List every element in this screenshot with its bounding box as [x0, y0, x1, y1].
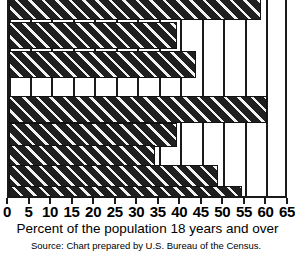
- plot-area: [7, 0, 287, 198]
- tick-label-20: 20: [85, 203, 101, 221]
- bar-3: [9, 51, 196, 78]
- tick-label-5: 5: [25, 203, 33, 221]
- tick-label-10: 10: [42, 203, 58, 221]
- tick-label-65: 65: [279, 203, 295, 221]
- tick-label-25: 25: [107, 203, 123, 221]
- bar-row: [9, 22, 285, 49]
- tick-label-35: 35: [150, 203, 166, 221]
- bar-row: [9, 0, 285, 20]
- tick-label-0: 0: [3, 203, 11, 221]
- tick-label-30: 30: [128, 203, 144, 221]
- bar-row: [9, 186, 285, 198]
- bar-2: [9, 22, 177, 49]
- bar-row: [9, 96, 285, 123]
- chart-container: 05101520253035404550556065 Percent of th…: [0, 0, 295, 253]
- bar-5: [9, 123, 177, 147]
- bar-1: [9, 0, 261, 20]
- tick-label-60: 60: [257, 203, 273, 221]
- x-axis-tick-labels: 05101520253035404550556065: [0, 203, 295, 223]
- tick-label-50: 50: [214, 203, 230, 221]
- bar-row: [9, 51, 285, 78]
- tick-label-45: 45: [193, 203, 209, 221]
- tick-label-55: 55: [236, 203, 252, 221]
- tick-label-40: 40: [171, 203, 187, 221]
- x-axis-label: Percent of the population 18 years and o…: [0, 221, 295, 237]
- tick-label-15: 15: [64, 203, 80, 221]
- source-note: Source: Chart prepared by U.S. Bureau of…: [31, 240, 261, 252]
- bar-row: [9, 123, 285, 147]
- bar-4: [9, 96, 267, 123]
- bar-series: [9, 0, 285, 196]
- bar-8: [9, 186, 242, 198]
